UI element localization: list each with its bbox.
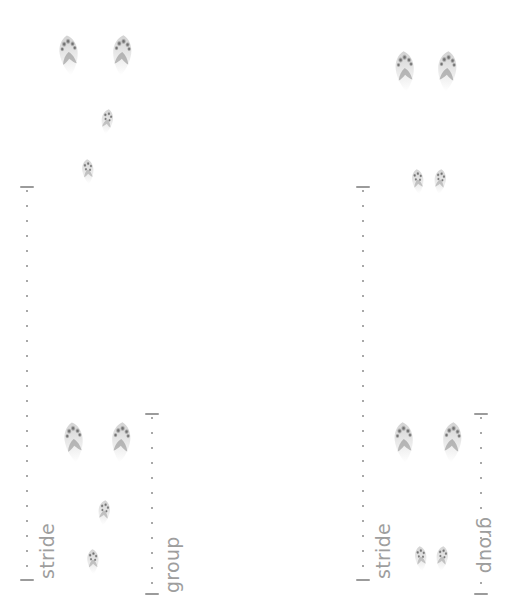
bracket-cap-top <box>20 186 34 188</box>
bracket-cap-top <box>474 413 488 415</box>
paw-print-icon <box>388 48 421 96</box>
track-print <box>105 32 138 80</box>
track-print <box>57 419 92 468</box>
track-print <box>52 32 87 81</box>
bracket-cap-bottom <box>20 579 34 581</box>
track-print <box>407 167 430 197</box>
paw-print-icon <box>429 167 452 197</box>
bracket-dotted-line <box>480 417 482 591</box>
paw-print-icon <box>93 498 116 528</box>
group-bracket <box>143 413 161 595</box>
track-print <box>83 548 104 577</box>
bracket-cap-top <box>356 186 370 188</box>
paw-print-icon <box>95 107 119 138</box>
stride-bracket <box>354 186 372 581</box>
paw-print-icon <box>83 548 104 577</box>
track-print <box>435 419 468 467</box>
track-print <box>77 157 99 186</box>
stride-bracket-label: stride <box>38 523 57 579</box>
paw-print-icon <box>431 544 454 574</box>
bracket-cap-bottom <box>356 579 370 581</box>
track-gait-figure: stridegroupstridegroup <box>0 0 522 603</box>
bracket-dotted-line <box>362 190 364 577</box>
group-bracket-label: group <box>163 536 182 593</box>
paw-print-icon <box>77 157 99 186</box>
left-track-panel <box>0 0 261 603</box>
track-print <box>429 167 452 197</box>
paw-print-icon <box>105 32 138 80</box>
track-print <box>410 544 433 574</box>
track-print <box>431 544 454 574</box>
track-print <box>430 48 463 96</box>
paw-print-icon <box>104 419 137 467</box>
paw-print-icon <box>387 419 420 467</box>
bracket-dotted-line <box>26 190 28 577</box>
paw-print-icon <box>430 48 463 96</box>
track-print <box>104 419 137 467</box>
bracket-cap-top <box>145 413 159 415</box>
group-bracket <box>472 413 490 595</box>
stride-bracket-label: stride <box>374 523 393 579</box>
paw-print-icon <box>407 167 430 197</box>
track-print <box>387 419 420 467</box>
paw-print-icon <box>57 419 92 468</box>
track-print <box>95 107 119 138</box>
paw-print-icon <box>435 419 468 467</box>
bracket-dotted-line <box>151 417 153 591</box>
track-print <box>388 48 421 96</box>
stride-bracket <box>18 186 36 581</box>
bracket-cap-bottom <box>145 593 159 595</box>
track-print <box>93 498 116 528</box>
paw-print-icon <box>410 544 433 574</box>
paw-print-icon <box>52 32 87 81</box>
bracket-cap-bottom <box>474 593 488 595</box>
